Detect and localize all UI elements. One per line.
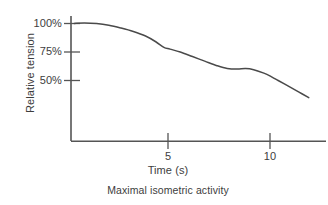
y-axis-title: Relative tension: [23, 13, 37, 133]
xtick-label-5: 5: [156, 150, 180, 162]
chart-figure: 100% 75% 50% 5 10 Relative tension Time …: [0, 0, 328, 205]
xtick-label-10: 10: [258, 150, 282, 162]
tension-decay-curve: [74, 23, 309, 98]
figure-caption: Maximal isometric activity: [48, 184, 288, 196]
x-axis-title: Time (s): [108, 164, 228, 176]
